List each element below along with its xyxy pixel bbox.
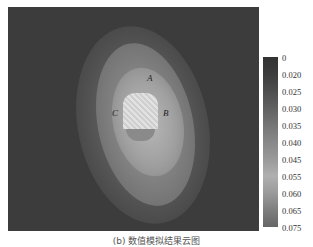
tick: 0.045 <box>282 155 301 165</box>
tick: 0.055 <box>282 172 301 182</box>
tick: 0.025 <box>282 87 301 97</box>
contour-plot: A B C <box>8 7 259 231</box>
tick: 0.065 <box>282 206 301 216</box>
figure-caption: (b) 数值模拟结果云图 <box>0 234 313 247</box>
tick: 0.035 <box>282 121 301 131</box>
tick: 0.075 <box>282 223 301 233</box>
point-label-b: B <box>163 108 169 118</box>
colorbar-ticks: 0 0.020 0.025 0.030 0.035 0.040 0.045 0.… <box>282 53 313 233</box>
tick: 0 <box>282 53 286 63</box>
tick: 0.040 <box>282 138 301 148</box>
tick: 0.060 <box>282 189 301 199</box>
tunnel-section <box>123 93 158 129</box>
tick: 0.030 <box>282 104 301 114</box>
point-label-a: A <box>147 73 153 83</box>
tick: 0.020 <box>282 70 301 80</box>
colorbar <box>263 57 278 227</box>
point-label-c: C <box>112 108 118 118</box>
